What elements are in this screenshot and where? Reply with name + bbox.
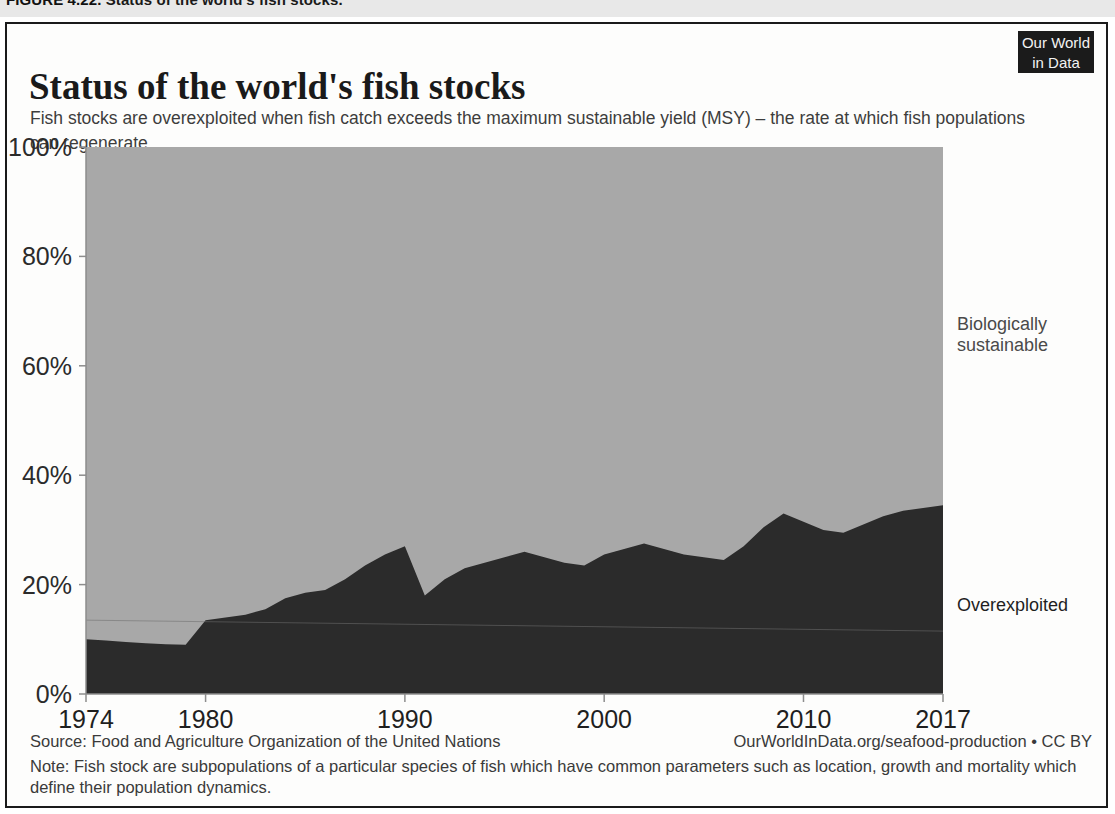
- footer-top-row: Source: Food and Agriculture Organizatio…: [30, 732, 1094, 755]
- stacked-area-chart: 0%20%40%60%80%100%1974198019902000201020…: [7, 24, 1110, 810]
- plot-area: 0%20%40%60%80%100%1974198019902000201020…: [7, 24, 1110, 810]
- y-axis-tick-label: 20%: [22, 571, 72, 599]
- figure-caption-text: Status of the world's fish stocks.: [106, 0, 343, 8]
- x-axis-tick-label: 1990: [377, 705, 433, 733]
- attribution-text[interactable]: OurWorldInData.org/seafood-production • …: [733, 732, 1092, 751]
- y-axis-tick-label: 0%: [36, 680, 72, 708]
- series-label-biologically-sustainable-line2: sustainable: [957, 335, 1048, 355]
- x-axis-tick-label: 2017: [915, 705, 971, 733]
- figure-number: FIGURE 4.22.: [6, 0, 101, 8]
- x-axis-tick-label: 2000: [576, 705, 632, 733]
- y-axis-tick-label: 40%: [22, 461, 72, 489]
- x-axis-tick-label: 2010: [776, 705, 832, 733]
- y-axis-tick-label: 60%: [22, 352, 72, 380]
- chart-footer: Source: Food and Agriculture Organizatio…: [30, 732, 1094, 798]
- source-text: Source: Food and Agriculture Organizatio…: [30, 732, 501, 751]
- note-text: Note: Fish stock are subpopulations of a…: [30, 756, 1094, 798]
- y-axis-tick-label: 80%: [22, 242, 72, 270]
- figure-caption: FIGURE 4.22. Status of the world's fish …: [6, 0, 343, 8]
- y-axis-tick-label: 100%: [8, 133, 72, 161]
- x-axis-tick-label: 1980: [178, 705, 234, 733]
- series-label-biologically-sustainable: Biologically: [957, 314, 1047, 334]
- chart-card: Status of the world's fish stocks Fish s…: [5, 22, 1108, 808]
- series-label-overexploited: Overexploited: [957, 595, 1068, 615]
- x-axis-tick-label: 1974: [58, 705, 114, 733]
- figure-caption-strip: FIGURE 4.22. Status of the world's fish …: [0, 0, 1115, 17]
